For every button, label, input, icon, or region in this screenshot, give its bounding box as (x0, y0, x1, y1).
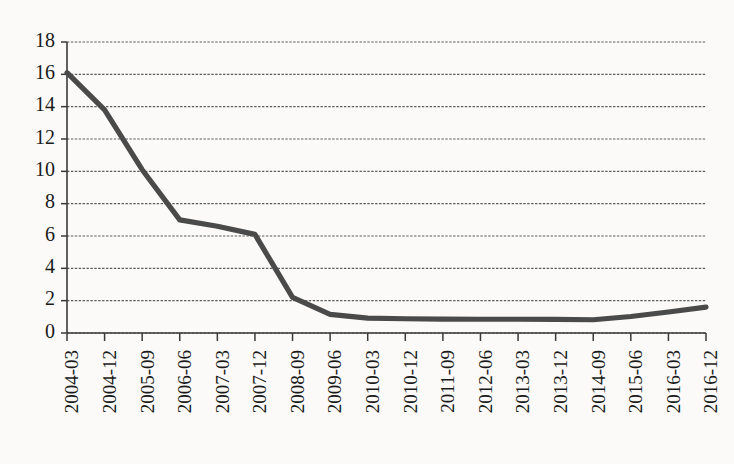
line-chart-figure: 024681012141618 2004-032004-122005-09200… (0, 0, 734, 464)
y-axis-tick-label: 4 (45, 255, 55, 277)
chart-canvas: 024681012141618 2004-032004-122005-09200… (0, 0, 734, 464)
x-axis-tick-label: 2009-06 (324, 350, 345, 413)
x-axis-tick-label: 2010-03 (362, 350, 383, 413)
x-axis-tick-label: 2007-03 (212, 350, 233, 413)
x-axis-tick-label: 2005-09 (137, 350, 158, 413)
y-axis-tick-label: 14 (35, 93, 55, 115)
y-axis-tick-label: 10 (35, 158, 55, 180)
x-axis-tick-label: 2007-12 (249, 350, 270, 413)
y-axis-tick-label: 12 (35, 126, 55, 148)
y-axis-tick-label: 16 (35, 61, 55, 83)
x-axis-tick-label: 2014-09 (588, 350, 609, 413)
x-axis-tick-label: 2013-03 (512, 350, 533, 413)
x-axis-tick-label: 2011-09 (437, 350, 458, 413)
x-axis-tick-label: 2015-06 (625, 350, 646, 413)
x-axis-tick-label: 2008-09 (287, 350, 308, 413)
y-axis-tick-label: 18 (35, 29, 55, 51)
x-axis-tick-label: 2004-12 (99, 350, 120, 413)
y-axis-tick-label: 8 (45, 190, 55, 212)
x-axis-tick-label: 2016-03 (663, 350, 684, 413)
y-axis-tick-label: 6 (45, 223, 55, 245)
x-axis-tick-label: 2013-12 (550, 350, 571, 413)
x-axis-tick-label: 2012-06 (475, 350, 496, 413)
x-axis-tick-label: 2010-12 (400, 350, 421, 413)
x-axis-tick-label: 2004-03 (61, 350, 82, 413)
x-axis-tick-label: 2016-12 (700, 350, 721, 413)
y-axis-tick-label: 2 (45, 287, 55, 309)
x-axis-tick-label: 2006-06 (174, 350, 195, 413)
y-axis-tick-label: 0 (45, 320, 55, 342)
